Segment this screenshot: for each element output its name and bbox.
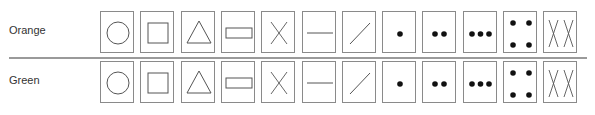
one-dot-icon (382, 11, 416, 53)
x-cross-icon (261, 11, 295, 53)
row-label-orange: Orange (9, 24, 46, 36)
three-dots-icon (463, 11, 497, 53)
x-cross-icon (261, 61, 295, 103)
diagonal-line-icon (342, 11, 376, 53)
row-label-green: Green (9, 74, 40, 86)
horizontal-line-icon (302, 61, 336, 103)
rectangle-icon (221, 11, 255, 53)
square-icon (140, 61, 174, 103)
one-dot-icon (382, 61, 416, 103)
rectangle-icon (221, 61, 255, 103)
circle-icon (100, 11, 134, 53)
horizontal-line-icon (302, 11, 336, 53)
row-green: Green (0, 61, 595, 105)
circle-icon (100, 61, 134, 103)
double-x-icon (543, 61, 577, 103)
two-dots-icon (422, 11, 456, 53)
triangle-icon (181, 61, 215, 103)
row-orange: Orange (0, 11, 595, 55)
three-dots-icon (463, 61, 497, 103)
four-dots-icon (503, 11, 537, 53)
two-dots-icon (422, 61, 456, 103)
square-icon (140, 11, 174, 53)
diagonal-line-icon (342, 61, 376, 103)
double-x-icon (543, 11, 577, 53)
four-dots-icon (503, 61, 537, 103)
row-divider (9, 57, 587, 59)
triangle-icon (181, 11, 215, 53)
